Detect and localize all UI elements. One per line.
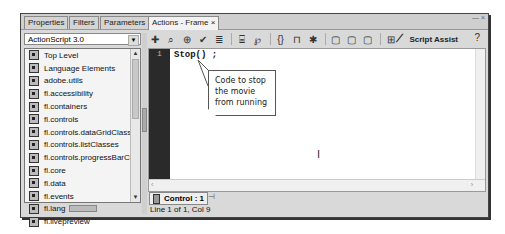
item-label: fl.controls bbox=[44, 115, 78, 124]
list-item[interactable]: fl.controls bbox=[25, 113, 140, 126]
wand-icon: ⟋ bbox=[396, 33, 403, 45]
divider bbox=[325, 33, 326, 45]
book-icon bbox=[29, 114, 39, 124]
check-syntax-icon[interactable]: ✔ bbox=[196, 33, 209, 46]
script-icon bbox=[153, 194, 160, 204]
item-label: Language Elements bbox=[44, 64, 115, 73]
book-icon bbox=[29, 178, 39, 188]
book-icon bbox=[29, 89, 39, 99]
book-icon bbox=[29, 217, 39, 227]
scroll-up-icon[interactable]: ▲ bbox=[131, 49, 140, 58]
script-assist-button[interactable]: ⟋Script Assist bbox=[396, 33, 458, 45]
editor-toolbar: ✚ ⌕ ⊕ ✔ ≣ ⌸ ℘ {} ⊓ ✱ ▢ ▢ ▢ ⊞ ⟋Script Ass… bbox=[148, 31, 486, 47]
tab-filters[interactable]: Filters bbox=[69, 16, 99, 29]
divider bbox=[380, 33, 381, 45]
annotation-callout: Code to stop the movie from running bbox=[208, 70, 276, 116]
book-icon bbox=[29, 76, 39, 86]
divider bbox=[231, 33, 232, 45]
text-cursor-icon: I bbox=[317, 148, 320, 160]
target-path-icon[interactable]: ⊕ bbox=[180, 33, 193, 46]
pane-splitter[interactable] bbox=[142, 33, 147, 214]
list-item[interactable]: fl.livepreview bbox=[25, 215, 140, 228]
book-icon bbox=[29, 204, 39, 214]
collapse-selection-icon[interactable]: ⊓ bbox=[290, 33, 303, 46]
cursor-status: Line 1 of 1, Col 9 bbox=[150, 205, 210, 214]
pin-script-icon[interactable]: ⊣ bbox=[208, 192, 215, 201]
book-icon bbox=[29, 50, 39, 60]
tab-properties[interactable]: Properties bbox=[24, 16, 68, 29]
list-item[interactable]: fl.accessibility bbox=[25, 87, 140, 100]
block-comment-icon[interactable]: ▢ bbox=[329, 33, 342, 46]
language-select[interactable]: ActionScript 3.0▼ bbox=[24, 33, 141, 45]
book-icon bbox=[29, 63, 39, 73]
debug-icon[interactable]: ℘ bbox=[251, 33, 264, 46]
find-icon[interactable]: ⌕ bbox=[164, 33, 177, 46]
help-icon[interactable]: ? bbox=[474, 32, 480, 43]
item-label: fl.controls.listClasses bbox=[44, 140, 119, 149]
remove-comment-icon[interactable]: ▢ bbox=[361, 33, 374, 46]
item-label: fl.containers bbox=[44, 102, 87, 111]
script-tab-label: Control : 1 bbox=[164, 194, 204, 203]
collapse-braces-icon[interactable]: {} bbox=[274, 33, 287, 46]
editor-vscroll[interactable] bbox=[475, 49, 485, 179]
tab-actions-frame[interactable]: Actions - Frame × bbox=[148, 16, 219, 30]
list-item[interactable]: fl.controls.dataGridClasses bbox=[25, 126, 140, 139]
scroll-left-icon[interactable]: ‹ bbox=[151, 181, 153, 188]
line-number: 1 bbox=[149, 49, 170, 58]
chevron-down-icon[interactable]: ▼ bbox=[128, 35, 139, 46]
item-label: fl.events bbox=[44, 192, 74, 201]
expand-all-icon[interactable]: ✱ bbox=[306, 33, 319, 46]
close-icon[interactable]: × bbox=[211, 18, 216, 27]
code-hint-icon[interactable]: ⌸ bbox=[235, 33, 248, 46]
book-icon bbox=[29, 166, 39, 176]
book-icon bbox=[29, 127, 39, 137]
list-item[interactable]: fl.core bbox=[25, 164, 140, 177]
line-comment-icon[interactable]: ▢ bbox=[345, 33, 358, 46]
scroll-right-icon[interactable]: › bbox=[471, 181, 473, 188]
scroll-thumb[interactable] bbox=[132, 59, 139, 119]
item-label: fl.data bbox=[44, 179, 66, 188]
list-item[interactable]: fl.containers bbox=[25, 100, 140, 113]
list-item[interactable]: fl.controls.progressBarCla... bbox=[25, 151, 140, 164]
auto-format-icon[interactable]: ≣ bbox=[212, 33, 225, 46]
toolbox-scrollbar[interactable]: ▲ ▼ bbox=[130, 49, 140, 202]
list-item[interactable]: fl.events bbox=[25, 190, 140, 203]
item-label: fl.lang bbox=[44, 204, 65, 213]
divider bbox=[270, 33, 271, 45]
list-item[interactable]: adobe.utils bbox=[25, 75, 140, 88]
item-label: fl.livepreview bbox=[44, 217, 90, 226]
add-statement-icon[interactable]: ✚ bbox=[148, 33, 161, 46]
collapse-toggle[interactable] bbox=[142, 108, 147, 132]
editor-footer: Control : 1 ⊣ Line 1 of 1, Col 9 bbox=[148, 191, 486, 215]
tab-label: Actions - Frame bbox=[152, 18, 208, 27]
resize-grip[interactable] bbox=[69, 205, 97, 212]
tab-parameters[interactable]: Parameters bbox=[100, 16, 149, 29]
window-controls[interactable]: — × bbox=[472, 14, 485, 21]
actions-toolbox: ActionScript 3.0▼ Top Level Language Ele… bbox=[24, 33, 141, 214]
script-assist-label: Script Assist bbox=[409, 35, 458, 44]
script-tab-control[interactable]: Control : 1 bbox=[149, 192, 208, 205]
list-item[interactable]: Top Level bbox=[25, 49, 140, 62]
list-item[interactable]: Language Elements bbox=[25, 62, 140, 75]
book-icon bbox=[29, 102, 39, 112]
item-label: fl.controls.dataGridClasses bbox=[44, 128, 140, 137]
editor-hscroll[interactable]: ‹› bbox=[149, 179, 485, 191]
scroll-down-icon[interactable]: ▼ bbox=[131, 193, 140, 202]
toolbox-list: Top Level Language Elements adobe.utils … bbox=[24, 48, 141, 203]
language-select-value: ActionScript 3.0 bbox=[28, 35, 84, 44]
panel-tabbar: Properties Filters Parameters Actions - … bbox=[21, 14, 488, 30]
item-label: Top Level bbox=[44, 51, 78, 60]
item-label: adobe.utils bbox=[44, 76, 83, 85]
line-number-gutter: 1 bbox=[149, 49, 170, 179]
item-label: fl.controls.progressBarCla... bbox=[44, 153, 140, 162]
item-label: fl.accessibility bbox=[44, 89, 93, 98]
book-icon bbox=[29, 153, 39, 163]
book-icon bbox=[29, 191, 39, 201]
item-label: fl.core bbox=[44, 166, 66, 175]
book-icon bbox=[29, 140, 39, 150]
list-item[interactable]: fl.data bbox=[25, 177, 140, 190]
list-item[interactable]: fl.controls.listClasses bbox=[25, 139, 140, 152]
